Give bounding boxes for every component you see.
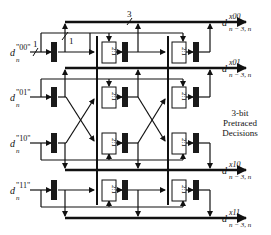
bus-width-tap: 1 [69, 36, 74, 46]
svg-text:n − 3, n: n − 3, n [229, 221, 252, 229]
register-11-1 [122, 180, 128, 200]
row-01 [30, 68, 246, 97]
row-10 [30, 143, 246, 170]
input-label-11: d "11" n [10, 181, 30, 202]
svg-text:n: n [16, 56, 20, 64]
svg-text:2:1: 2:1 [110, 47, 118, 56]
svg-text:x01: x01 [228, 58, 241, 67]
bus-width-output: 3 [127, 9, 132, 19]
bus-width-input: 1 [33, 39, 38, 49]
register-01-0 [51, 87, 57, 107]
input-label-00: d "00" n [10, 43, 31, 64]
svg-text:n − 3, n: n − 3, n [229, 25, 252, 33]
registers [51, 42, 199, 200]
mux-01-1: 2:1 [102, 87, 118, 108]
svg-text:2:1: 2:1 [110, 138, 118, 147]
svg-text:x11: x11 [228, 208, 240, 217]
svg-text:n − 3, n: n − 3, n [229, 173, 252, 181]
svg-text:n: n [16, 194, 20, 202]
mux-11-1: 2:1 [102, 180, 118, 201]
mux-10-1: 2:1 [102, 133, 118, 154]
register-00-2 [193, 42, 199, 62]
svg-text:x00: x00 [228, 12, 241, 21]
row-11 [30, 190, 246, 218]
input-label-01: d "01" n [10, 88, 31, 109]
svg-text:"11": "11" [16, 181, 30, 190]
register-11-2 [193, 180, 199, 200]
svg-text:"10": "10" [16, 134, 31, 143]
svg-text:n − 3, n: n − 3, n [229, 71, 252, 79]
svg-text:"00": "00" [16, 43, 31, 52]
register-11-0 [51, 180, 57, 200]
svg-text:3-bit: 3-bit [232, 108, 249, 118]
svg-text:2:1: 2:1 [180, 47, 188, 56]
svg-text:2:1: 2:1 [110, 92, 118, 101]
register-10-1 [122, 133, 128, 153]
mux-10-2: 2:1 [172, 133, 188, 154]
mux-11-2: 2:1 [172, 180, 188, 201]
crossover-stage-2 [138, 97, 165, 143]
diagram-canvas: 2:1 2:1 2:1 2:1 2:1 2:1 2:1 2:1 [0, 0, 271, 235]
svg-text:2:1: 2:1 [180, 138, 188, 147]
mux-00-1: 2:1 [102, 42, 118, 63]
svg-text:2:1: 2:1 [110, 185, 118, 194]
side-note: 3-bit Pretraced Decisions [222, 108, 258, 138]
register-00-0 [51, 42, 57, 62]
crossover-stage-1 [66, 97, 94, 143]
row-00 [30, 22, 246, 52]
register-10-0 [51, 133, 57, 153]
svg-text:2:1: 2:1 [180, 185, 188, 194]
svg-text:n: n [16, 147, 20, 155]
svg-text:Decisions: Decisions [222, 128, 258, 138]
muxes: 2:1 2:1 2:1 2:1 2:1 2:1 2:1 2:1 [102, 42, 188, 201]
register-00-1 [122, 42, 128, 62]
register-01-2 [193, 87, 199, 107]
mux-01-2: 2:1 [172, 87, 188, 108]
svg-text:2:1: 2:1 [180, 92, 188, 101]
svg-text:"01": "01" [16, 88, 31, 97]
register-01-1 [122, 87, 128, 107]
register-10-2 [193, 133, 199, 153]
pretraced-decision-diagram: 2:1 2:1 2:1 2:1 2:1 2:1 2:1 2:1 [0, 0, 271, 235]
input-label-10: d "10" n [10, 134, 31, 155]
svg-text:Pretraced: Pretraced [223, 118, 257, 128]
svg-text:x10: x10 [228, 160, 241, 169]
mux-00-2: 2:1 [172, 42, 188, 63]
svg-text:n: n [16, 101, 20, 109]
